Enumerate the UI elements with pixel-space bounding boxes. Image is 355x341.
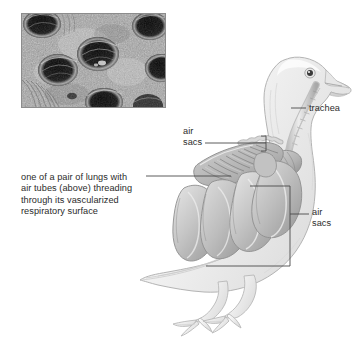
bird-anatomy-illustration (140, 38, 355, 338)
label-trachea: trachea (309, 103, 340, 114)
pigeon-diagram (140, 38, 355, 338)
label-lungs: one of a pair of lungs with air tubes (a… (21, 172, 171, 218)
label-air-sacs-right: air sacs (312, 207, 352, 230)
anterior-air-sac (254, 152, 277, 177)
bird-eye (305, 68, 315, 78)
label-air-sacs-upper: air sacs (183, 126, 223, 149)
respiratory-system-figure: one of a pair of lungs with air tubes (a… (0, 0, 355, 341)
